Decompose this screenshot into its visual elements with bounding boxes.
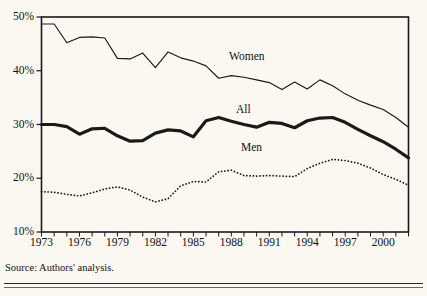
x-tick-label: 1973 <box>22 236 62 248</box>
x-tick-label: 1997 <box>325 236 365 248</box>
plot-area: 10%20%30%40%50% 197319761979198219851988… <box>0 0 427 250</box>
footer-rule <box>4 283 423 284</box>
series-line-men <box>42 159 409 201</box>
x-tick-label: 1985 <box>173 236 213 248</box>
y-tick-label: 20% <box>0 171 34 183</box>
x-tick-label: 1976 <box>59 236 99 248</box>
data-series-group <box>42 24 409 202</box>
chart-figure: 10%20%30%40%50% 197319761979198219851988… <box>0 0 427 296</box>
x-tick-label: 1982 <box>135 236 175 248</box>
series-label-men: Men <box>241 141 262 153</box>
x-tick-label: 1994 <box>287 236 327 248</box>
series-line-all <box>42 118 409 158</box>
series-label-all: All <box>236 103 251 115</box>
chart-svg <box>0 0 427 250</box>
x-tick-label: 1979 <box>97 236 137 248</box>
x-tick-label: 1991 <box>249 236 289 248</box>
source-note: Source: Authors' analysis. <box>5 262 114 273</box>
y-tick-label: 40% <box>0 64 34 76</box>
series-label-women: Women <box>229 50 264 62</box>
plot-frame <box>42 17 409 232</box>
y-tick-label: 50% <box>0 10 34 22</box>
series-line-women <box>42 24 409 127</box>
x-tick-label: 2000 <box>363 236 403 248</box>
x-tick-label: 1988 <box>211 236 251 248</box>
y-tick-label: 30% <box>0 118 34 130</box>
footer-rule-secondary <box>4 287 423 288</box>
